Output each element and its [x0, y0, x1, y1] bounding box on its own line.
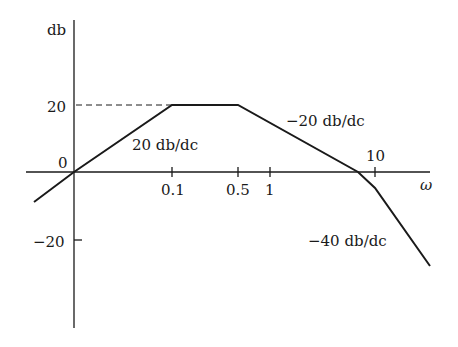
- x-tick-label-1: 1: [265, 181, 275, 199]
- slope-label-neg20: −20 db/dc: [286, 112, 365, 130]
- bode-plot: db 20 0 −20 0.1 0.5 1 10 ω 20 db/dc −20 …: [0, 0, 458, 347]
- slope-label-neg40: −40 db/dc: [308, 232, 387, 250]
- y-axis-label: db: [47, 21, 66, 39]
- x-tick-label-0.1: 0.1: [161, 181, 185, 199]
- slope-label-20: 20 db/dc: [132, 136, 198, 154]
- y-tick-label-20: 20: [47, 98, 66, 116]
- y-tick-label-0: 0: [58, 154, 68, 172]
- y-tick-label-neg20: −20: [33, 233, 65, 251]
- x-tick-label-10: 10: [366, 147, 385, 165]
- x-tick-label-0.5: 0.5: [226, 181, 250, 199]
- x-axis-label: ω: [420, 176, 432, 194]
